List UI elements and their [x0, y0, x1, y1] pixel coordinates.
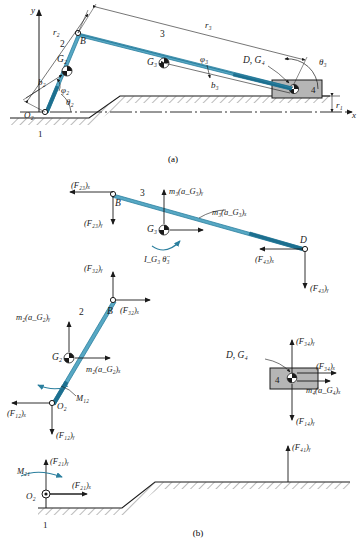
dimension-r3-label: r₃: [205, 20, 212, 30]
force-f43x-label: (F₄₃)ₓ: [255, 254, 275, 264]
crank-fbd-joint-b-label: B: [107, 306, 113, 316]
force-f34x-label: (F₃₄)ₓ: [316, 361, 336, 371]
center-of-mass-g3-b: G₃: [147, 224, 169, 235]
force-f12x-label: (F₁₂)ₓ: [7, 408, 27, 418]
center-of-mass-g2-b: G₂: [52, 352, 74, 363]
inertia-m4-ag4x-label: m₄(a_G₄)ₓ: [306, 385, 341, 395]
crank-free-body-diagram: B O₂ 2 G₂ (F₃₂)ᵧ (F₃₂)ₓ m₂(a_G₂)ᵧ m₂(a_G…: [7, 263, 150, 440]
joint-o2-label-a: O₂: [24, 110, 34, 120]
link-label-1-a: 1: [38, 129, 43, 139]
force-f21y-label: (F₂₁)ᵧ: [50, 456, 69, 466]
slider-free-body-diagram: 4 D, G₄ (F₃₄)ᵧ (F₃₄)ₓ m₄(a_G₄)ₓ (F₁₄)ᵧ: [225, 336, 341, 426]
force-f12y-label: (F₁₂)ᵧ: [56, 430, 75, 440]
caption-a: (a): [168, 154, 178, 164]
coupler-free-body-diagram: B D 3 G₃ (F₂₃)ₓ (F₂₃)ᵧ m₃(a_G₃)ᵧ m₃(a_G₃…: [70, 180, 329, 293]
moment-m12-label: M₁₂: [75, 393, 89, 403]
crank-fbd-joint-o2-label: O₂: [57, 401, 67, 411]
force-f23y-label: (F₂₃)ᵧ: [84, 218, 103, 228]
force-f34y-label: (F₃₄)ᵧ: [296, 336, 315, 346]
coupler-fbd-joint-d-label: D: [299, 235, 307, 245]
center-of-mass-g2-label-a: G₂: [57, 54, 68, 64]
slider-block-a: 4: [272, 80, 322, 98]
ground-fbd-link-number: 1: [43, 520, 48, 530]
crank-fbd-link-number: 2: [79, 307, 84, 317]
ground-free-body-diagram: O₂ 1 (F₂₁)ᵧ (F₂₁)ₓ M₂₁ (F₄₁)ᵧ: [16, 442, 350, 530]
inertia-m3-ag3y-label: m₃(a_G₃)ᵧ: [169, 186, 203, 196]
dimension-r1-label: r₁: [336, 100, 343, 110]
diagram-a: y x 1 r₁ 4: [0, 4, 356, 164]
center-of-mass-g3-label-a: G₃: [147, 57, 157, 67]
diagram-b: B D 3 G₃ (F₂₃)ₓ (F₂₃)ᵧ m₃(a_G₃)ᵧ m₃(a_G₃…: [7, 180, 350, 538]
axis-label-y: y: [30, 5, 35, 15]
force-f43y-label: (F₄₃)ᵧ: [310, 283, 329, 293]
force-f32x-label: (F₃₂)ₓ: [120, 305, 140, 315]
force-f23x-label: (F₂₃)ₓ: [71, 180, 91, 190]
caption-b: (b): [193, 528, 204, 538]
force-f32y-label: (F₃₂)ᵧ: [84, 263, 103, 273]
joint-b-label-a: B: [80, 36, 86, 46]
force-f41y-label: (F₄₁)ᵧ: [292, 442, 311, 452]
slider-fbd-link-number: 4: [275, 375, 280, 385]
force-f14y-label: (F₁₄)ᵧ: [296, 416, 315, 426]
force-f21x-label: (F₂₁)ₓ: [72, 480, 92, 490]
ground-fbd-joint-o2-label: O₂: [26, 491, 36, 501]
dimension-r2-label: r₂: [53, 27, 60, 37]
angle-theta2-label: θ₂: [66, 97, 74, 107]
angle-theta3-label: θ₃: [319, 57, 327, 67]
inertia-m2-ag2x-label: m₂(a_G₂)ₓ: [86, 364, 121, 374]
inertia-m2-ag2y-label: m₂(a_G₂)ᵧ: [16, 312, 50, 322]
dimension-b3-label: b₃: [211, 80, 219, 90]
center-of-mass-g4-marker-b: [287, 373, 297, 383]
coupler-fbd-mass-center-label: G₃: [147, 224, 157, 234]
axis-label-x: x: [351, 110, 356, 120]
ground-profile-a: 1: [10, 96, 330, 139]
dimension-r3-group: r₃: [78, 4, 307, 88]
moment-m21-label: M₂₁: [16, 466, 30, 476]
dimension-r2-group: r₂: [24, 10, 88, 112]
link-label-2-a: 2: [60, 39, 65, 49]
center-of-mass-g3-a: G₃: [147, 57, 169, 68]
link-label-3-a: 3: [160, 29, 165, 39]
inertia-moment-ig3-label: I_G₃ θ̈₃: [143, 254, 170, 264]
dimension-b2-label: b₂: [38, 77, 46, 87]
joint-d-g4-label-a: D, G₄: [242, 55, 265, 65]
mechanism-figure: y x 1 r₁ 4: [0, 0, 364, 541]
coupler-fbd-link-number: 3: [140, 188, 145, 198]
inertia-m3-ag3x-label: m₃(a_G₃)ₓ: [212, 207, 247, 217]
slider-fbd-point-label: D, G₄: [225, 350, 248, 360]
crank-fbd-mass-center-label: G₂: [52, 352, 63, 362]
angle-theta2-group: θ₂: [61, 94, 74, 112]
dimension-b3-group: b₃: [164, 63, 290, 93]
coupler-fbd-joint-b-label: B: [115, 198, 121, 208]
angle-phi3-label: φ₃: [200, 54, 208, 64]
angle-phi2-label: φ₂: [61, 85, 69, 95]
link-label-4-a: 4: [311, 85, 316, 95]
